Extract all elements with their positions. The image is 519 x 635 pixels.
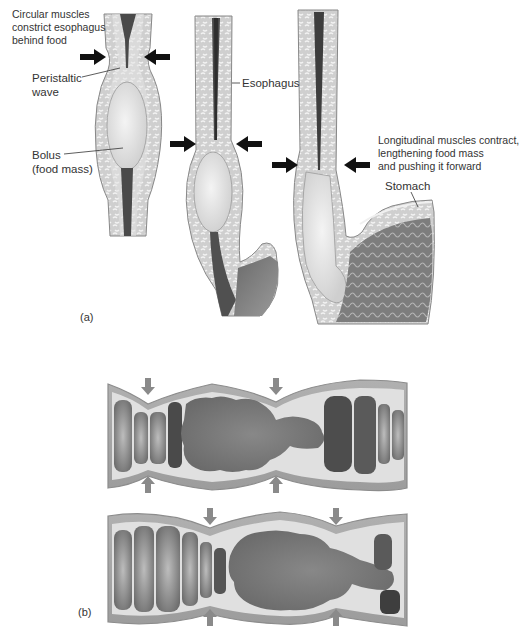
arrow-left-icon [344,157,370,173]
arrow-down-icon [329,508,343,525]
arrow-down-icon [203,508,217,525]
arrow-left-icon [236,136,262,152]
intestine-segment-top [108,380,407,491]
label-peristaltic-wave: Peristaltic wave [32,71,82,99]
label-bolus: Bolus (food mass) [32,148,93,176]
arrow-right-icon [170,136,196,152]
arrow-right-icon [80,49,106,65]
label-longitudinal-muscles: Longitudinal muscles contract, lengtheni… [378,134,519,173]
label-stomach: Stomach [385,179,430,193]
label-esophagus: Esophagus [242,76,300,90]
esophagus-stage-2 [186,16,278,316]
part-label-b: (b) [78,606,91,618]
esophagus-stage-1 [95,14,161,236]
arrow-right-icon [272,157,298,173]
part-label-a: (a) [80,311,93,323]
intestine-segment-bottom [108,512,407,626]
arrow-down-icon [141,378,155,395]
arrow-down-icon [269,378,283,395]
label-circular-muscles: Circular muscles constrict esophagus beh… [12,8,105,47]
